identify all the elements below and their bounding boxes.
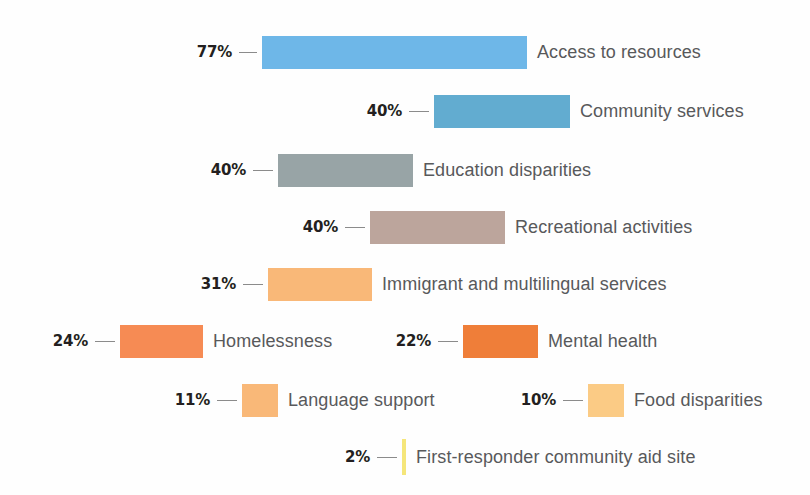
bar [588,384,624,417]
bar-value-label: 40% [211,161,246,179]
bar [262,36,527,69]
bar-category-label: Language support [288,390,435,411]
bar-category-label: Mental health [548,331,657,352]
bar-category-label: Recreational activities [515,217,692,238]
bar-row: 40%Community services [367,95,744,128]
bar-category-label: Food disparities [634,390,763,411]
bar-category-label: Community services [580,101,744,122]
bar [434,95,570,128]
bar-category-label: Homelessness [213,331,332,352]
bar-category-label: First-responder community aid site [416,447,696,468]
bar-row: 2%First-responder community aid site [345,439,696,475]
bar-row: 11%Language support [175,384,435,417]
bar-value-label: 40% [303,218,338,236]
bar-row: 77%Access to resources [197,36,701,69]
bar-value-label: 10% [521,391,556,409]
bar-value-label: 40% [367,102,402,120]
bar [268,268,372,301]
bar [278,154,413,187]
bar-value-label: 2% [345,448,370,466]
bar-row: 10%Food disparities [521,384,763,417]
leader-line [345,227,365,228]
bar-value-label: 77% [197,43,232,61]
bar [120,325,203,358]
bar [370,211,505,244]
leader-line [438,341,458,342]
bar-row: 31%Immigrant and multilingual services [201,268,667,301]
horizontal-bar-chart: 77%Access to resources40%Community servi… [0,0,810,495]
bar-row: 40%Education disparities [211,154,592,187]
bar-category-label: Access to resources [537,42,701,63]
leader-line [253,170,273,171]
leader-line [95,341,115,342]
leader-line [563,400,583,401]
leader-line [217,400,237,401]
bar-row: 22%Mental health [396,325,658,358]
bar-value-label: 24% [53,332,88,350]
bar [402,439,406,475]
bar-category-label: Education disparities [423,160,591,181]
bar-row: 40%Recreational activities [303,211,693,244]
bar [242,384,278,417]
leader-line [239,52,257,53]
bar-value-label: 22% [396,332,431,350]
bar-row: 24%Homelessness [53,325,333,358]
bar-value-label: 31% [201,275,236,293]
bar [463,325,538,358]
leader-line [409,111,429,112]
leader-line [377,457,397,458]
bar-category-label: Immigrant and multilingual services [382,274,667,295]
bar-value-label: 11% [175,391,210,409]
leader-line [243,284,263,285]
